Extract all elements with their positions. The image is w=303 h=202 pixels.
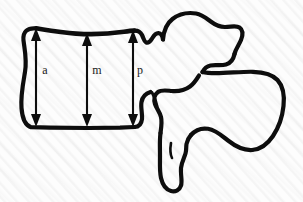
inferior-process-ridge [170,143,172,158]
superior-endplate [36,28,134,34]
measurement-label-posterior: p [137,64,143,76]
vertebra-diagram-figure: a m p [0,0,303,202]
spinous-process-inferior-border [191,129,252,150]
spinous-process-tip [203,72,284,150]
transverse-process-and-pedicle [154,76,199,134]
inferior-articular-process [160,133,191,191]
arrowhead-down-middle [82,114,92,127]
inferior-vertebral-notch [135,92,151,127]
superior-articular-process [163,13,242,54]
spinous-process-superior-border [203,54,235,72]
measurement-arrows-group [31,28,138,127]
measurement-arrow-posterior [128,30,138,127]
measurement-label-anterior: a [42,64,47,76]
vertebral-body-outline [21,28,134,128]
arrowhead-down-anterior [31,114,41,127]
measurement-arrow-anterior [31,28,41,127]
vertebra-outline-group [21,13,284,191]
measurement-arrow-middle [82,33,92,127]
posterior-body-wall-pedicle [134,31,163,43]
measurement-label-middle: m [92,64,101,76]
vertebra-diagram-canvas [0,0,303,202]
